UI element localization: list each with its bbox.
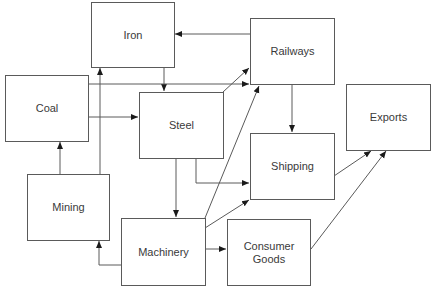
node-label: Coal	[36, 102, 59, 115]
flow-diagram: Iron Railways Coal Steel Exports Shippin…	[0, 0, 433, 291]
node-label: Mining	[52, 201, 84, 214]
edge-steel-railways	[223, 68, 249, 92]
edge-shipping-exports	[334, 151, 371, 176]
node-consumer-goods: Consumer Goods	[227, 219, 311, 286]
node-exports: Exports	[346, 84, 431, 151]
node-mining: Mining	[27, 174, 110, 241]
edge-steel-shipping	[196, 158, 249, 183]
node-label: Machinery	[138, 246, 189, 259]
node-steel: Steel	[139, 92, 224, 159]
node-railways: Railways	[250, 18, 335, 85]
node-coal: Coal	[5, 75, 89, 142]
node-shipping: Shipping	[250, 133, 335, 200]
edge-machinery-mining	[99, 241, 121, 265]
node-label: Iron	[124, 29, 143, 42]
node-machinery: Machinery	[121, 218, 206, 286]
node-label: Exports	[370, 111, 407, 124]
node-label: Shipping	[271, 160, 314, 173]
node-label: Steel	[169, 119, 194, 132]
node-label: Consumer Goods	[244, 240, 295, 266]
node-label: Railways	[270, 45, 314, 58]
node-iron: Iron	[91, 2, 175, 68]
